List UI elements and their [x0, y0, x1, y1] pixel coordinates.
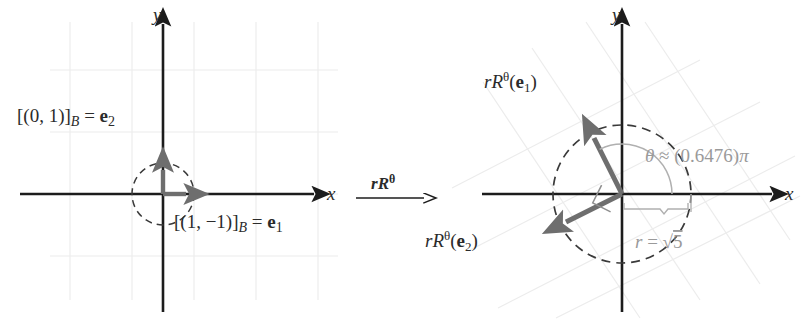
figure-root: x y [(0, 1)]B = e2 [(1, −1)]B = e1 rRθ	[0, 0, 805, 320]
radius-brace	[624, 194, 691, 214]
svg-text:rRθ: rRθ	[371, 172, 395, 193]
left-y-axis-label: y	[151, 4, 162, 25]
svg-text:rRθ(e2): rRθ(e2)	[425, 228, 478, 254]
right-axes	[482, 24, 772, 312]
left-grid	[50, 22, 338, 300]
left-label-e1: [(1, −1)]B = e1	[174, 211, 283, 235]
left-x-axis-label: x	[326, 183, 336, 204]
right-y-axis-label: y	[610, 4, 621, 25]
left-label-e2: [(0, 1)]B = e2	[17, 105, 115, 129]
math-figure-svg: x y [(0, 1)]B = e2 [(1, −1)]B = e1 rRθ	[0, 0, 805, 320]
theta-annotation: θ ≈ (0.6476)π	[645, 145, 749, 167]
left-axes	[20, 24, 314, 312]
svg-text:[(0, 1)]B = e2: [(0, 1)]B = e2	[17, 105, 115, 129]
svg-text:[(1, −1)]B = e1: [(1, −1)]B = e1	[174, 211, 283, 235]
svg-text:θ ≈ (0.6476)π: θ ≈ (0.6476)π	[645, 145, 749, 167]
right-label-rRe1: rRθ(e1)	[484, 69, 537, 95]
right-label-rRe2: rRθ(e2)	[425, 228, 478, 254]
right-vector-rRe2	[566, 194, 622, 222]
transformation-arrow: rRθ	[356, 172, 424, 198]
right-x-axis-label: x	[784, 183, 794, 204]
radius-annotation: r = √5	[635, 231, 683, 252]
right-grid	[452, 22, 800, 318]
svg-text:rRθ(e1): rRθ(e1)	[484, 69, 537, 95]
svg-text:r = √5: r = √5	[635, 231, 683, 252]
